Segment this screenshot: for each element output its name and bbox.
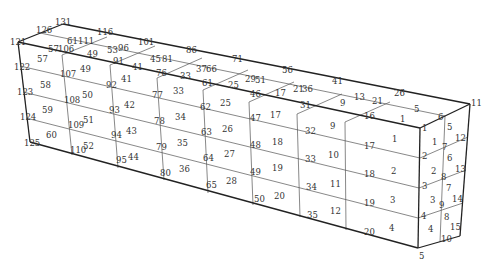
node-label: 31 [300, 100, 311, 110]
element-label: 59 [42, 105, 53, 115]
node-label: 49 [250, 167, 261, 177]
element-label: 42 [124, 100, 135, 110]
element-label: 33 [180, 71, 191, 81]
node-label: 19 [364, 198, 375, 208]
node-label: 16 [364, 111, 375, 121]
node-label: 2 [422, 151, 427, 161]
element-label: 25 [228, 80, 239, 90]
node-label: 41 [332, 76, 343, 86]
node-label: 94 [111, 130, 122, 140]
element-label: 27 [224, 149, 235, 159]
node-label: 47 [250, 113, 261, 123]
node-label: 20 [364, 227, 375, 237]
element-label: 2 [391, 166, 396, 176]
node-label: 63 [201, 127, 212, 137]
node-label: 62 [200, 102, 211, 112]
outline-edge [418, 236, 460, 248]
node-label: 7 [442, 142, 447, 152]
node-label: 35 [307, 210, 318, 220]
node-label: 122 [14, 62, 30, 72]
node-label: 78 [154, 116, 165, 126]
node-label: 50 [254, 194, 265, 204]
node-label: 48 [250, 140, 261, 150]
node-label: 1 [422, 123, 427, 133]
element-label: 9 [330, 121, 335, 131]
element-label: 4 [428, 224, 433, 234]
element-label: 6 [447, 153, 452, 163]
element-label: 2 [431, 166, 436, 176]
element-label: 26 [222, 124, 233, 134]
node-label: 17 [364, 141, 375, 151]
element-label: 44 [128, 152, 139, 162]
element-label: 25 [220, 98, 231, 108]
element-label: 19 [272, 163, 283, 173]
element-label: 12 [330, 206, 341, 216]
node-label: 92 [106, 80, 117, 90]
element-label: 57 [37, 54, 48, 64]
element-label: 58 [40, 80, 51, 90]
element-label: 45 [150, 54, 161, 64]
fem-box-mesh-diagram: 1311261211161111061019691868176716661565… [0, 0, 482, 273]
element-label: 1 [432, 137, 437, 147]
node-label: 121 [10, 37, 26, 47]
element-label: 53 [107, 45, 118, 55]
element-label: 8 [444, 212, 449, 222]
node-label: 14 [452, 194, 463, 204]
element-label: 61 [67, 36, 78, 46]
node-label: 33 [305, 154, 316, 164]
element-label: 49 [80, 64, 91, 74]
node-label: 34 [306, 182, 317, 192]
node-label: 51 [255, 75, 266, 85]
element-label: 9 [340, 98, 345, 108]
node-label: 101 [138, 37, 154, 47]
node-label: 79 [156, 142, 167, 152]
node-label: 96 [118, 43, 129, 53]
element-label: 41 [121, 74, 132, 84]
node-label: 8 [441, 172, 446, 182]
mesh-line [297, 114, 300, 217]
node-label: 9 [439, 200, 444, 210]
element-label: 17 [275, 88, 286, 98]
element-label: 37 [196, 64, 207, 74]
element-label: 57 [48, 44, 59, 54]
node-label: 91 [113, 56, 124, 66]
element-label: 33 [173, 86, 184, 96]
node-label: 56 [282, 65, 293, 75]
node-label: 61 [202, 78, 213, 88]
element-label: 60 [46, 130, 57, 140]
node-label: 125 [24, 138, 40, 148]
element-label: 17 [270, 110, 281, 120]
node-label: 71 [232, 54, 243, 64]
element-labels: 6157534945413733292521171395157585960495… [37, 36, 452, 234]
node-label: 131 [55, 17, 71, 27]
node-label: 15 [450, 222, 461, 232]
node-label: 77 [152, 90, 163, 100]
element-label: 28 [226, 176, 237, 186]
node-label: 111 [78, 36, 94, 46]
element-label: 20 [274, 191, 285, 201]
node-label: 12 [455, 133, 466, 143]
node-label: 126 [36, 25, 52, 35]
element-label: 51 [83, 115, 94, 125]
node-label: 107 [60, 69, 76, 79]
node-label: 66 [206, 64, 217, 74]
node-label: 11 [471, 98, 482, 108]
node-label: 76 [156, 68, 167, 78]
node-label: 21 [372, 96, 383, 106]
element-label: 41 [132, 62, 143, 72]
node-label: 3 [422, 181, 427, 191]
node-label: 64 [203, 153, 214, 163]
element-label: 18 [272, 137, 283, 147]
element-label: 52 [83, 141, 94, 151]
node-label: 95 [116, 155, 127, 165]
element-label: 5 [447, 122, 452, 132]
node-label: 124 [20, 112, 36, 122]
mesh-line [345, 122, 346, 230]
outline-edge [63, 24, 470, 104]
element-label: 43 [126, 126, 137, 136]
element-label: 1 [400, 114, 405, 124]
element-label: 5 [414, 104, 419, 114]
node-label: 81 [162, 54, 173, 64]
node-label: 5 [419, 251, 424, 261]
element-label: 21 [293, 84, 304, 94]
